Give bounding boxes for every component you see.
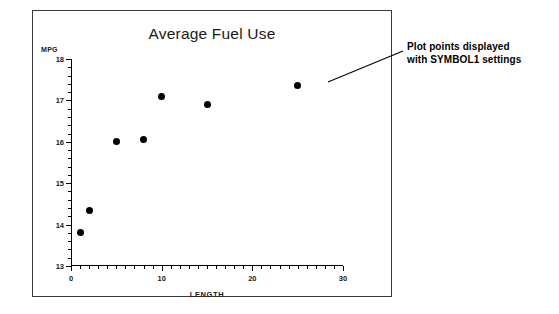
- data-point: [140, 136, 147, 143]
- x-axis-minor-tick: [98, 266, 99, 269]
- y-axis-minor-tick: [68, 258, 71, 259]
- x-axis-minor-tick: [180, 266, 181, 269]
- x-axis-tick: [343, 266, 344, 271]
- y-axis-minor-tick: [68, 200, 71, 201]
- y-axis-minor-tick: [68, 109, 71, 110]
- y-axis-minor-tick: [68, 167, 71, 168]
- x-axis-minor-tick: [144, 266, 145, 269]
- y-axis-minor-tick: [68, 158, 71, 159]
- data-point: [86, 207, 93, 214]
- x-axis-minor-tick: [307, 266, 308, 269]
- y-axis-tick: [66, 100, 71, 101]
- y-axis-tick: [66, 142, 71, 143]
- x-axis-minor-tick: [234, 266, 235, 269]
- figure-root: Average Fuel Use MPG LENGTH 131415161718…: [0, 0, 559, 314]
- x-axis-minor-tick: [207, 266, 208, 269]
- x-axis-tick-label: 10: [157, 274, 165, 283]
- y-axis-minor-tick: [68, 84, 71, 85]
- x-axis-tick-label: 0: [69, 274, 73, 283]
- figure-frame: Average Fuel Use MPG LENGTH 131415161718…: [32, 10, 392, 297]
- y-axis-tick-label: 17: [56, 96, 64, 105]
- x-axis-tick: [162, 266, 163, 271]
- y-axis-minor-tick: [68, 125, 71, 126]
- x-axis-minor-tick: [225, 266, 226, 269]
- y-axis-tick: [66, 183, 71, 184]
- annotation-line-1: Plot points displayed: [407, 40, 555, 53]
- y-axis-tick-label: 18: [56, 55, 64, 64]
- x-axis-minor-tick: [216, 266, 217, 269]
- x-axis-minor-tick: [89, 266, 90, 269]
- y-axis-tick: [66, 59, 71, 60]
- y-axis-minor-tick: [68, 175, 71, 176]
- y-axis-minor-tick: [68, 117, 71, 118]
- x-axis-minor-tick: [289, 266, 290, 269]
- x-axis-minor-tick: [325, 266, 326, 269]
- x-axis-tick: [71, 266, 72, 271]
- x-axis-title: LENGTH: [71, 290, 343, 299]
- x-axis-minor-tick: [243, 266, 244, 269]
- x-axis-tick: [252, 266, 253, 271]
- y-axis-minor-tick: [68, 216, 71, 217]
- annotation-text: Plot points displayed with SYMBOL1 setti…: [407, 40, 555, 66]
- x-axis-minor-tick: [80, 266, 81, 269]
- x-axis-minor-tick: [171, 266, 172, 269]
- x-axis-minor-tick: [334, 266, 335, 269]
- y-axis-title: MPG: [41, 46, 58, 53]
- x-axis-minor-tick: [280, 266, 281, 269]
- y-axis-tick-label: 16: [56, 137, 64, 146]
- x-axis-minor-tick: [134, 266, 135, 269]
- y-axis-minor-tick: [68, 150, 71, 151]
- chart-title: Average Fuel Use: [33, 25, 391, 43]
- y-axis-minor-tick: [68, 249, 71, 250]
- x-axis-minor-tick: [189, 266, 190, 269]
- data-point: [204, 101, 211, 108]
- annotation-line-2: with SYMBOL1 settings: [407, 53, 555, 66]
- x-axis-tick-label: 20: [248, 274, 256, 283]
- x-axis-minor-tick: [198, 266, 199, 269]
- y-axis-minor-tick: [68, 241, 71, 242]
- y-axis-minor-tick: [68, 67, 71, 68]
- x-axis-minor-tick: [153, 266, 154, 269]
- x-axis-minor-tick: [125, 266, 126, 269]
- y-axis-tick-label: 13: [56, 262, 64, 271]
- y-axis-minor-tick: [68, 191, 71, 192]
- y-axis-minor-tick: [68, 92, 71, 93]
- x-axis-minor-tick: [116, 266, 117, 269]
- data-point: [294, 82, 301, 89]
- x-axis-minor-tick: [107, 266, 108, 269]
- y-axis-line: [71, 59, 72, 266]
- x-axis-minor-tick: [261, 266, 262, 269]
- plot-area: MPG LENGTH 1314151617180102030: [71, 59, 343, 266]
- data-point: [158, 93, 165, 100]
- data-point: [113, 138, 120, 145]
- y-axis-tick: [66, 225, 71, 226]
- y-axis-minor-tick: [68, 134, 71, 135]
- y-axis-minor-tick: [68, 208, 71, 209]
- y-axis-tick-label: 15: [56, 179, 64, 188]
- x-axis-tick-label: 30: [339, 274, 347, 283]
- y-axis-minor-tick: [68, 76, 71, 77]
- x-axis-minor-tick: [298, 266, 299, 269]
- y-axis-tick-label: 14: [56, 220, 64, 229]
- x-axis-minor-tick: [316, 266, 317, 269]
- x-axis-minor-tick: [270, 266, 271, 269]
- data-point: [77, 229, 84, 236]
- y-axis-minor-tick: [68, 233, 71, 234]
